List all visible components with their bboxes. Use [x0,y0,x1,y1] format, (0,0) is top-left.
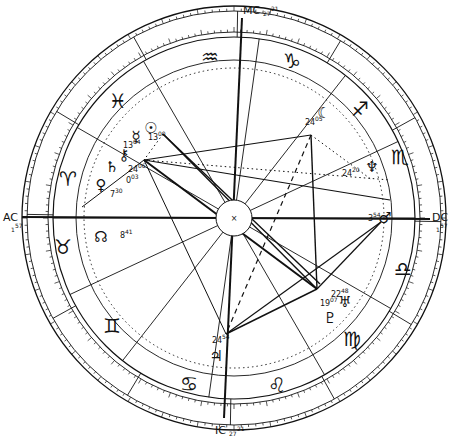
tick [429,145,434,147]
tick [149,407,150,409]
tick [46,185,51,186]
tick [409,282,414,284]
planet-minutes: 48 [341,287,349,294]
tick [316,385,317,387]
tick [414,172,416,173]
tick [46,309,48,310]
tick [108,356,110,358]
tick [277,13,278,15]
tick [310,46,311,48]
tick [356,385,357,387]
tick [31,167,33,168]
tick [429,289,434,291]
tick [423,133,425,134]
tick [368,347,370,349]
tick [349,365,351,367]
tick [183,15,184,17]
tick [312,24,313,26]
chiron-icon: ⚷ [119,146,130,164]
tick [426,140,428,141]
tick [182,397,183,399]
tick [343,368,344,370]
tick [436,261,438,262]
tick [123,368,124,370]
planet-minutes: 06 [138,162,146,169]
tick [51,172,53,173]
tick [111,49,112,51]
tick [381,102,383,104]
tick [388,113,390,114]
tick [285,37,286,39]
tick [331,401,332,403]
tick [156,24,157,26]
tick [176,17,177,19]
tick [413,166,415,167]
tick [40,296,42,297]
tick [197,9,198,14]
tick [393,351,397,354]
tick [82,327,84,328]
ic-label: IC [215,424,226,437]
tick [417,120,419,121]
tick [201,401,202,406]
tick [146,52,147,54]
tick [169,19,170,21]
tick [65,95,67,96]
tick [69,311,73,314]
tick [333,376,334,378]
tick [318,27,319,29]
mc-label: MC [243,4,260,17]
tick [62,294,64,295]
tick [291,395,292,397]
tick [417,185,422,186]
tick [435,268,437,269]
aquarius-sign-icon: ♒ [201,45,219,69]
tick [59,147,61,148]
tick [156,410,157,412]
tick [161,19,163,24]
tick [417,250,422,251]
tick [103,352,105,354]
tick [395,311,399,314]
pluto-icon: ♇ [323,309,336,327]
tick [344,40,345,42]
sign-boundary [127,373,140,395]
tick [111,72,114,76]
tick [163,390,164,392]
tick [33,275,35,276]
center-mark: × [231,214,238,223]
tick [74,118,76,119]
tick [56,328,58,329]
planet-degree: 24 [305,118,315,127]
tick [413,322,417,325]
tick [406,288,408,289]
tick [46,250,51,251]
tick [338,372,339,374]
tick [29,174,31,175]
tick [406,101,408,102]
node-icon: ☊ [94,228,107,246]
tick [50,179,52,180]
tick [43,302,45,303]
tick [398,130,400,131]
tick [376,95,380,98]
tick [420,309,422,310]
tick [142,404,143,406]
tick [331,33,332,35]
tick [111,385,112,387]
tick [55,153,60,155]
tick [285,397,286,399]
tick [404,141,406,142]
tick [392,317,394,318]
tick [55,282,60,284]
tick [49,120,51,121]
tick [94,92,96,94]
house-cusp-line [70,226,218,295]
capricorn-sign-icon: ♑ [283,49,301,73]
tick [338,397,341,401]
tick [354,72,357,76]
tick [316,49,317,51]
tick [146,382,147,384]
tick [338,34,341,38]
dc-minutes: 57 [440,222,448,229]
